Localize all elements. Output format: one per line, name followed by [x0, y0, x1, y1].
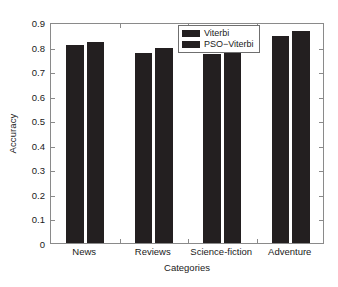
y-axis-title-text: Accuracy	[8, 114, 19, 154]
y-axis-tick-mark	[51, 49, 55, 50]
y-axis-tick-mark	[319, 171, 323, 172]
y-axis-tick-mark	[51, 171, 55, 172]
x-axis-tick-labels: NewsReviewsScience-fictionAdventure	[50, 246, 324, 260]
bar-science-fiction-viterbi	[203, 54, 221, 243]
legend-entry: PSO−Viterbi	[182, 39, 254, 50]
y-axis-tick-label: 0.6	[32, 91, 45, 102]
plot-inner	[51, 24, 323, 243]
x-axis-tick-mark	[257, 239, 258, 243]
y-axis-tick-mark	[319, 73, 323, 74]
y-axis-tick-label: 0.2	[32, 189, 45, 200]
y-axis-tick-mark	[319, 122, 323, 123]
x-axis-tick-mark	[120, 239, 121, 243]
y-axis-tick-labels: 00.10.20.30.40.50.60.70.80.9	[18, 23, 48, 244]
y-axis-tick-mark	[319, 220, 323, 221]
legend-swatch-2	[182, 41, 200, 48]
y-axis-tick-label: 0.9	[32, 18, 45, 29]
bar-adventure-pso-viterbi	[292, 31, 310, 243]
y-axis-tick-mark	[319, 49, 323, 50]
x-axis-tick-label: Reviews	[135, 246, 171, 257]
bar-adventure-viterbi	[272, 36, 290, 243]
y-axis-tick-mark	[51, 73, 55, 74]
bar-news-pso-viterbi	[87, 42, 105, 243]
y-axis-tick-mark	[51, 196, 55, 197]
x-axis-tick-label: Science-fiction	[190, 246, 252, 257]
x-axis-tick-label: Adventure	[268, 246, 311, 257]
y-axis-tick-label: 0.1	[32, 214, 45, 225]
x-axis-tick-mark	[188, 239, 189, 243]
x-axis-title: Categories	[50, 262, 324, 273]
figure-canvas: Accuracy 00.10.20.30.40.50.60.70.80.9 Ne…	[0, 0, 338, 287]
y-axis-tick-mark	[51, 122, 55, 123]
y-axis-tick-mark	[319, 147, 323, 148]
legend-entry: Viterbi	[182, 28, 254, 39]
y-axis-tick-mark	[51, 147, 55, 148]
legend-label: Viterbi	[204, 28, 229, 39]
y-axis-tick-mark	[319, 196, 323, 197]
y-axis-tick-label: 0	[40, 239, 45, 250]
legend-swatch-1	[182, 30, 200, 37]
x-axis-tick-label: News	[72, 246, 96, 257]
bar-reviews-viterbi	[135, 53, 153, 243]
y-axis-tick-mark	[319, 98, 323, 99]
y-axis-tick-label: 0.7	[32, 67, 45, 78]
bar-reviews-pso-viterbi	[155, 48, 173, 243]
bar-science-fiction-pso-viterbi	[224, 47, 242, 243]
x-axis-title-text: Categories	[164, 262, 210, 273]
y-axis-tick-mark	[51, 98, 55, 99]
plot-area	[50, 23, 324, 244]
y-axis-tick-label: 0.3	[32, 165, 45, 176]
y-axis-tick-mark	[51, 220, 55, 221]
chart-legend: ViterbiPSO−Viterbi	[178, 25, 260, 53]
y-axis-tick-label: 0.8	[32, 42, 45, 53]
legend-label: PSO−Viterbi	[204, 39, 254, 50]
y-axis-tick-label: 0.5	[32, 116, 45, 127]
y-axis-tick-label: 0.4	[32, 140, 45, 151]
bar-news-viterbi	[66, 45, 84, 243]
x-axis-tick-mark	[120, 24, 121, 28]
